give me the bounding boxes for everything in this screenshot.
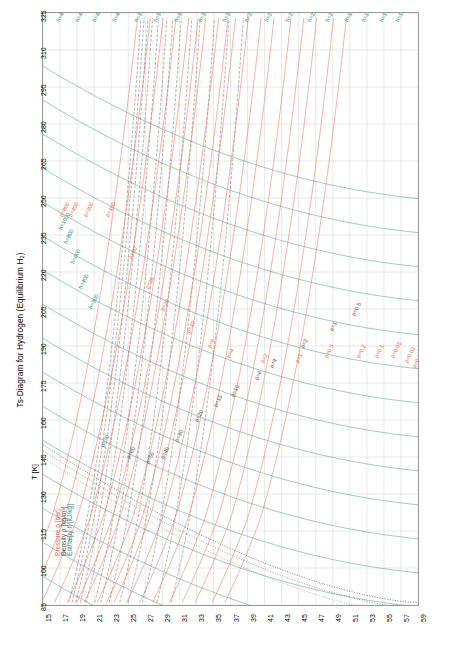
y-tick: 190 — [40, 343, 47, 355]
chart-page: Ts-Diagram for Hydrogen (Equilibrium H₂)… — [0, 0, 459, 653]
x-tick: 49 — [335, 614, 342, 622]
x-tick: 25 — [130, 614, 137, 622]
x-tick: 33 — [198, 614, 205, 622]
y-tick: 280 — [40, 121, 47, 133]
grid-lines — [43, 13, 418, 605]
x-tick: 43 — [284, 614, 291, 622]
y-tick: 130 — [40, 491, 47, 503]
y-axis-label: T [K] — [30, 464, 39, 480]
x-tick: 39 — [250, 614, 257, 622]
page-title: Ts-Diagram for Hydrogen (Equilibrium H₂) — [16, 252, 25, 407]
x-tick: 31 — [181, 614, 188, 622]
x-tick: 47 — [318, 614, 325, 622]
x-tick: 37 — [233, 614, 240, 622]
x-tick: 59 — [420, 614, 427, 622]
x-tick: 57 — [403, 614, 410, 622]
y-tick: 85 — [40, 603, 47, 611]
x-tick: 15 — [45, 614, 52, 622]
x-tick: 45 — [301, 614, 308, 622]
y-tick: 310 — [40, 47, 47, 59]
legend-enthalpy: Enthalpy h [kJ/kg] — [66, 504, 73, 556]
x-tick: 35 — [215, 614, 222, 622]
x-tick: 27 — [147, 614, 154, 622]
pressure-lines — [43, 18, 346, 603]
x-tick: 55 — [386, 614, 393, 622]
y-tick: 235 — [40, 232, 47, 244]
y-tick: 265 — [40, 158, 47, 170]
y-tick: 295 — [40, 84, 47, 96]
plot-area: p=800p=400p=200p=100p=50p=30p=20p=10p=6p… — [42, 12, 419, 606]
y-tick: 220 — [40, 269, 47, 281]
y-tick: 115 — [40, 529, 47, 540]
x-tick: 17 — [62, 614, 69, 622]
x-tick: 41 — [267, 614, 274, 622]
y-tick: 145 — [40, 454, 47, 466]
x-tick: 29 — [164, 614, 171, 622]
y-tick: 250 — [40, 195, 47, 207]
plot-svg — [43, 13, 418, 605]
y-tick: 205 — [40, 306, 47, 318]
density-lines — [69, 18, 244, 603]
y-tick: 100 — [40, 565, 47, 577]
x-tick: 21 — [96, 614, 103, 622]
legend: Pressure p [bar] Density ρ [kg/m³] Entha… — [54, 470, 68, 556]
x-tick: 51 — [352, 614, 359, 622]
y-tick: 160 — [40, 417, 47, 429]
x-tick: 19 — [79, 614, 86, 622]
y-tick: 175 — [40, 380, 47, 392]
y-tick: 325 — [40, 10, 47, 22]
x-tick: 23 — [113, 614, 120, 622]
x-tick: 53 — [369, 614, 376, 622]
